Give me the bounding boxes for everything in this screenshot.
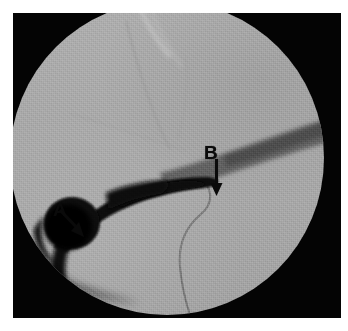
thin-catheter-line-icon xyxy=(180,183,211,315)
anatomy-overlay xyxy=(13,13,324,315)
annotation-arrow-b-icon xyxy=(207,159,227,197)
radiograph-figure: A B xyxy=(0,0,348,331)
radiograph-panel: A B xyxy=(13,13,341,318)
bright-streak-top-icon xyxy=(138,13,182,67)
soft-tissue-edge-line-icon xyxy=(70,21,187,151)
fluoroscopy-circular-field xyxy=(13,13,324,315)
annotation-arrow-a-icon xyxy=(57,209,91,243)
